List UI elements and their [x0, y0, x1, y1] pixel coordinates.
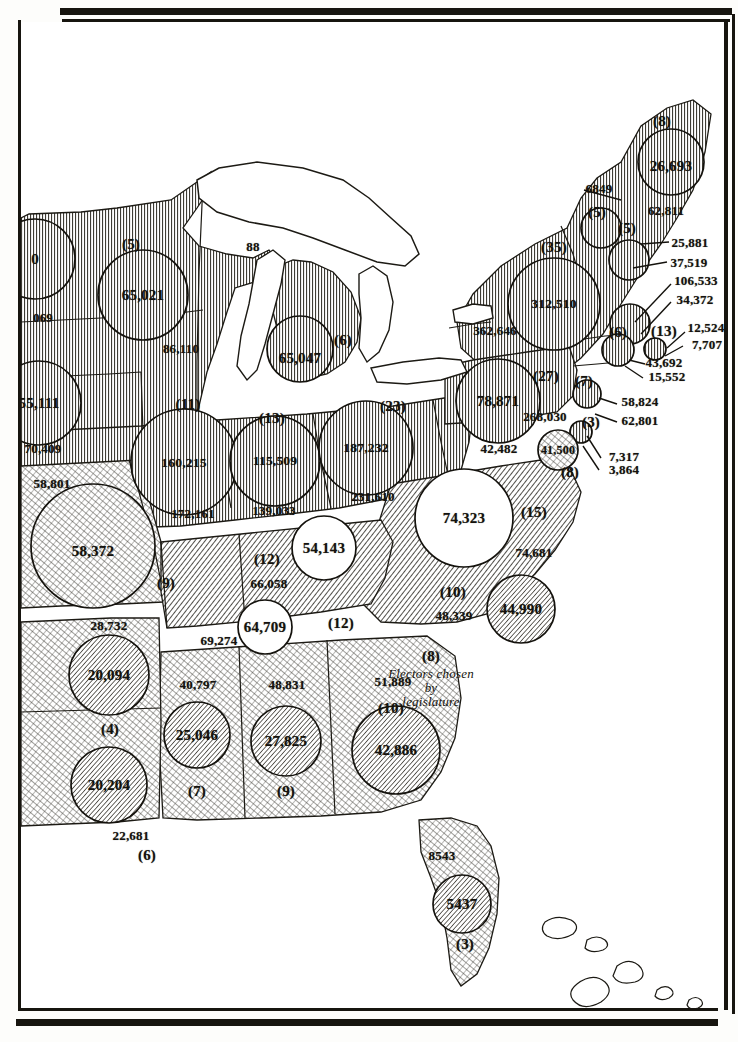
electoral-votes-michigan: (6): [334, 333, 352, 348]
popular-vote-michigan: 65,047: [279, 351, 321, 366]
electoral-votes-maine: (8): [653, 114, 671, 129]
secondary-vote-delaware-1: 3,864: [609, 463, 639, 476]
secondary-vote-connecticut-0: 43,692: [646, 356, 683, 369]
frame-rule-bottom-thick: [16, 1019, 718, 1026]
south-carolina-legislature-note: Electors chosen by legislature: [388, 667, 474, 709]
secondary-vote-pennsylvania-0: 268,030: [523, 410, 567, 423]
secondary-vote-minnesota-partial-0: 069: [33, 311, 53, 324]
secondary-vote-new-jersey-1: 62,801: [622, 414, 659, 427]
popular-vote-mississippi: 27,825: [265, 734, 307, 749]
frame-rule-right: [724, 20, 728, 1010]
map-plate: 006965,02186,110(5)65,047(6)8855,11170,4…: [21, 22, 724, 1008]
offshore-islands: [542, 917, 702, 1008]
electoral-votes-delaware: (3): [582, 415, 600, 430]
secondary-vote-arkansas-0: 28,732: [91, 619, 128, 632]
secondary-vote-missouri-0: 58,801: [34, 477, 71, 490]
circle-new-hampshire: [609, 240, 649, 280]
electoral-votes-new-jersey: (7): [575, 374, 593, 389]
popular-vote-minnesota-partial: 0: [31, 252, 39, 267]
electoral-votes-illinois: (11): [176, 397, 201, 412]
secondary-vote-kentucky-0: 66,058: [251, 577, 288, 590]
popular-vote-arkansas: 20,094: [88, 668, 130, 683]
secondary-vote-michigan-upper-label-0: 88: [246, 240, 259, 253]
popular-vote-louisiana: 20,204: [88, 778, 130, 793]
secondary-vote-tennessee-0: 69,274: [201, 634, 238, 647]
popular-vote-wisconsin: 65,021: [122, 288, 164, 303]
electoral-votes-connecticut: (6): [609, 325, 627, 340]
electoral-votes-vermont: (5): [588, 205, 606, 220]
secondary-vote-mississippi-0: 48,831: [269, 678, 306, 691]
popular-vote-north-carolina: 44,990: [500, 602, 542, 617]
popular-vote-kentucky: 54,143: [303, 541, 345, 556]
popular-vote-alabama: 25,046: [176, 728, 218, 743]
secondary-vote-virginia-0: 74,681: [516, 546, 553, 559]
popular-vote-new-york: 312,510: [531, 297, 576, 311]
secondary-vote-ohio-0: 231,610: [351, 490, 395, 503]
secondary-vote-connecticut-1: 15,552: [649, 370, 686, 383]
secondary-vote-alabama-0: 40,797: [180, 678, 217, 691]
popular-vote-iowa: 55,111: [21, 396, 59, 411]
map-engraving: [21, 22, 724, 1008]
popular-vote-virginia: 74,323: [443, 511, 485, 526]
secondary-vote-louisiana-0: 22,681: [113, 829, 150, 842]
electoral-votes-north-carolina: (10): [440, 585, 466, 600]
secondary-vote-new-york-0: 362,646: [473, 324, 517, 337]
secondary-vote-massachusetts-0: 106,533: [674, 274, 718, 287]
electoral-votes-alabama: (7): [188, 784, 206, 799]
secondary-vote-iowa-0: 70,409: [25, 442, 62, 455]
electoral-votes-louisiana: (6): [138, 848, 156, 863]
secondary-vote-maine-0: 62,811: [648, 204, 684, 217]
frame-rule-top-thick: [60, 8, 732, 15]
frame-rule-right-outer: [732, 14, 735, 1014]
secondary-vote-rhode-island-1: 7,707: [692, 338, 722, 351]
electoral-votes-ohio: (23): [380, 399, 406, 414]
electoral-votes-maryland: (8): [561, 465, 579, 480]
electoral-votes-missouri: (9): [157, 576, 175, 591]
electoral-votes-wisconsin: (5): [122, 237, 140, 252]
secondary-vote-new-hampshire-0: 25,881: [672, 236, 709, 249]
electoral-votes-kentucky: (12): [254, 552, 280, 567]
popular-vote-pennsylvania: 78,871: [477, 394, 519, 409]
popular-vote-illinois: 160,215: [161, 456, 206, 470]
electoral-votes-tennessee: (12): [328, 616, 354, 631]
secondary-vote-new-jersey-0: 58,824: [622, 395, 659, 408]
popular-vote-ohio: 187,232: [343, 441, 388, 455]
electoral-votes-virginia: (15): [521, 505, 547, 520]
popular-vote-indiana: 115,509: [253, 454, 298, 468]
secondary-vote-new-hampshire-1: 37,519: [671, 256, 708, 269]
electoral-votes-florida: (3): [456, 937, 474, 952]
secondary-vote-maryland-0: 42,482: [481, 442, 518, 455]
electoral-votes-new-york: (35): [541, 240, 567, 255]
popular-vote-florida: 5437: [447, 897, 478, 912]
secondary-vote-wisconsin-0: 86,110: [163, 342, 199, 355]
popular-vote-missouri: 58,372: [72, 544, 114, 559]
electoral-votes-pennsylvania: (27): [533, 369, 559, 384]
lake-superior: [197, 162, 419, 266]
electoral-votes-massachusetts: (13): [651, 324, 677, 339]
electoral-votes-indiana: (13): [259, 411, 285, 426]
lake-huron: [359, 266, 393, 362]
popular-vote-maine: 26,693: [650, 159, 692, 174]
secondary-vote-north-carolina-0: 48,339: [436, 609, 473, 622]
electoral-votes-mississippi: (9): [277, 784, 295, 799]
electoral-votes-south-carolina: (8): [422, 649, 440, 664]
secondary-vote-rhode-island-0: 12,524: [688, 321, 724, 334]
popular-vote-georgia: 42,886: [375, 743, 417, 758]
frame-rule-bottom-thin: [18, 1008, 718, 1011]
secondary-vote-illinois-0: 172,161: [171, 507, 215, 520]
popular-vote-tennessee: 64,709: [244, 620, 286, 635]
secondary-vote-massachusetts-1: 34,372: [677, 293, 714, 306]
secondary-vote-florida-0: 8543: [429, 849, 456, 862]
electoral-votes-new-hampshire: (5): [618, 221, 636, 236]
secondary-vote-indiana-0: 139,033: [252, 504, 296, 517]
electoral-votes-arkansas: (4): [101, 722, 119, 737]
map-figure-page: 006965,02186,110(5)65,047(6)8855,11170,4…: [0, 0, 738, 1042]
popular-vote-maryland: 41,500: [541, 444, 575, 456]
secondary-vote-vermont-0: 6849: [586, 182, 613, 195]
